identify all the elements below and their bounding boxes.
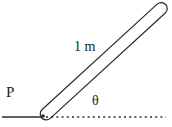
length-label: 1 m (74, 39, 96, 54)
angle-label: θ (92, 93, 99, 108)
pivot-point (41, 114, 45, 118)
rod (38, 0, 170, 122)
point-label: P (6, 84, 14, 100)
rod-diagram: 1 m P θ (0, 0, 172, 127)
